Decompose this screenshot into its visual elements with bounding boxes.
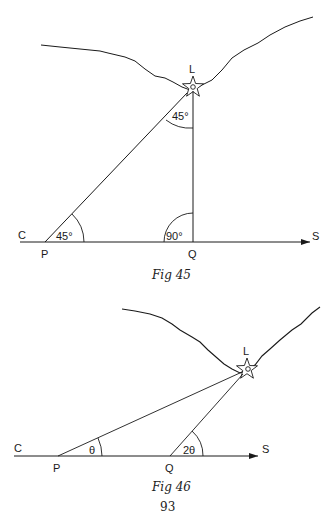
diagram-canvas: L 45° 45° 90° C P Q S Fig 45 L θ 2θ C [0,0,334,514]
caption-fig-45: Fig 45 [151,268,191,282]
label-C-45: C [18,229,26,241]
line-QL-46 [170,374,243,456]
angle-Q-46: 2θ [183,444,195,456]
caption-fig-46: Fig 46 [151,480,191,494]
label-S-46: S [262,443,269,455]
angle-arc-P-46 [98,438,102,456]
label-S-45: S [312,230,319,242]
label-L-45: L [189,63,195,75]
angle-arc-P-45 [72,214,84,242]
figure-45: L 45° 45° 90° C P Q S Fig 45 [18,17,319,282]
angle-P-45: 45° [56,230,73,242]
line-PL-45 [45,93,187,242]
label-C-46: C [14,442,22,454]
label-P-46: P [53,462,60,474]
coastline-46 [122,307,320,373]
angle-L-45: 45° [172,110,189,122]
label-L-46: L [243,345,249,357]
angle-Q-45: 90° [166,230,183,242]
figure-46: L θ 2θ C P Q S Fig 46 [14,307,320,494]
label-P-45: P [41,248,48,260]
coastline-45 [41,17,313,90]
page-number: 93 [160,500,175,514]
label-Q-45: Q [188,248,197,260]
label-Q-46: Q [165,462,174,474]
line-PL-46 [58,372,242,456]
landmark-star-icon [237,358,258,378]
angle-P-46: θ [89,444,95,456]
